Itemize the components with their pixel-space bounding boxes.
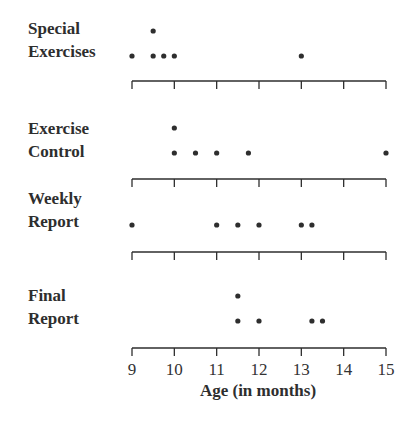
data-dot bbox=[320, 318, 325, 323]
data-dot bbox=[172, 125, 177, 130]
data-dot bbox=[129, 53, 134, 58]
data-dot bbox=[246, 150, 251, 155]
data-dot bbox=[172, 150, 177, 155]
x-tick-label: 12 bbox=[251, 360, 268, 380]
x-tick-label: 15 bbox=[378, 360, 395, 380]
x-tick-label: 10 bbox=[166, 360, 183, 380]
series-final-report bbox=[132, 293, 386, 356]
data-dot bbox=[256, 222, 261, 227]
data-dot bbox=[161, 53, 166, 58]
series-special-exercises bbox=[129, 28, 386, 89]
data-dot bbox=[235, 318, 240, 323]
data-dot bbox=[256, 318, 261, 323]
data-dot bbox=[151, 53, 156, 58]
series-weekly-report bbox=[129, 222, 386, 260]
data-dot bbox=[172, 53, 177, 58]
data-dot bbox=[383, 150, 388, 155]
data-dot bbox=[299, 53, 304, 58]
x-tick-label: 9 bbox=[128, 360, 137, 380]
x-tick-label: 14 bbox=[335, 360, 352, 380]
data-dot bbox=[129, 222, 134, 227]
x-tick-label: 11 bbox=[208, 360, 224, 380]
x-tick-label: 13 bbox=[293, 360, 310, 380]
data-dot bbox=[214, 222, 219, 227]
data-dot bbox=[299, 222, 304, 227]
data-dot bbox=[193, 150, 198, 155]
data-dot bbox=[235, 293, 240, 298]
data-dot bbox=[151, 28, 156, 33]
data-dot bbox=[235, 222, 240, 227]
data-dot bbox=[214, 150, 219, 155]
data-dot bbox=[309, 222, 314, 227]
data-dot bbox=[309, 318, 314, 323]
x-axis-label: Age (in months) bbox=[200, 381, 316, 401]
series-exercise-control bbox=[132, 125, 389, 187]
